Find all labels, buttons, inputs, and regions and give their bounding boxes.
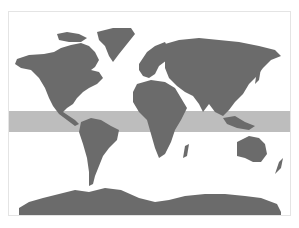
europe (139, 42, 169, 78)
australia (237, 136, 267, 162)
world-map (9, 12, 291, 216)
arctic-islands (57, 32, 87, 42)
greenland (97, 28, 135, 62)
map-frame (8, 11, 291, 216)
south-america (79, 118, 119, 186)
madagascar (183, 144, 189, 158)
antarctica (19, 188, 281, 216)
new-zealand (275, 158, 283, 174)
